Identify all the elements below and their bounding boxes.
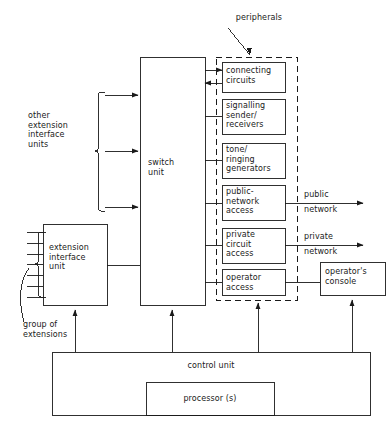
public-network-access-label: public- network access [226,187,286,216]
switch-unit-label: switch unit [148,158,204,177]
private-circuit-access-label: private circuit access [226,230,286,259]
other-extension-units-brace [95,92,105,211]
other-extension-units-label: other extension interface units [28,111,98,149]
group-of-extensions-brace [35,232,46,297]
tone-ringing-generators-label: tone/ ringing generators [226,145,286,174]
operators-console-label: operator's console [325,267,385,286]
switch-unit-box [140,57,205,305]
extension-interface-unit-label: extension interface unit [49,243,107,272]
group-of-extensions-label: group of extensions [23,320,93,339]
control-unit-label: control unit [52,361,370,371]
private-network-label-top: private [304,232,333,242]
peripherals-group-boundary [216,57,297,300]
peripherals-leader-line [228,28,250,55]
public-network-label-top: public [304,190,329,200]
signalling-sender-receivers-label: signalling sender/ receivers [226,101,286,130]
peripherals-group-label: peripherals [226,13,292,23]
private-network-label-bottom: network [304,247,337,257]
connecting-circuits-label: connecting circuits [226,66,286,85]
diagram-canvas: peripherals other extension interface un… [0,0,391,429]
public-network-label-bottom: network [304,205,337,215]
group-of-extensions-leader [21,268,29,322]
operator-access-label: operator access [226,273,286,292]
processor-label: processor (s) [146,394,274,404]
